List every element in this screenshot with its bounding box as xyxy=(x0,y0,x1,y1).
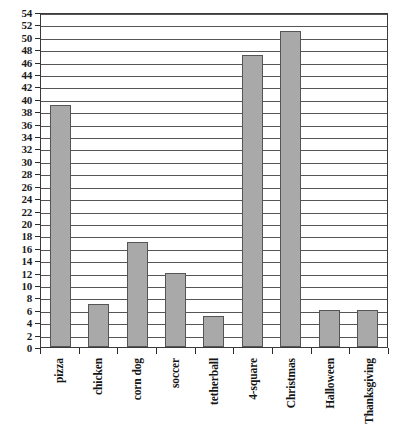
y-axis-tick-label: 4 xyxy=(27,318,32,329)
bar-slot xyxy=(310,14,348,347)
y-axis-tick-label: 46 xyxy=(21,57,32,68)
y-axis-tick-label: 14 xyxy=(21,256,32,267)
y-axis-tick-label: 34 xyxy=(21,132,32,143)
x-axis-tick-mark xyxy=(272,348,273,354)
bar xyxy=(50,105,71,347)
x-axis-tick-label: Halloween xyxy=(324,358,336,409)
x-label-slot: soccer xyxy=(156,356,195,431)
bar-slot xyxy=(118,14,156,347)
bar xyxy=(127,242,148,347)
x-axis-tick-mark xyxy=(311,348,312,354)
bar xyxy=(357,310,378,347)
y-axis-tick-label: 8 xyxy=(27,293,32,304)
y-axis-tick-label: 26 xyxy=(21,181,32,192)
bar-slot xyxy=(349,14,387,347)
y-axis-tick-label: 22 xyxy=(21,206,32,217)
y-axis-tick-label: 6 xyxy=(27,305,32,316)
y-axis-tick-label: 38 xyxy=(21,107,32,118)
y-axis-tick-label: 30 xyxy=(21,156,32,167)
plot-area xyxy=(40,13,388,348)
y-axis-tick-label: 2 xyxy=(27,330,32,341)
y-axis-tick-label: 50 xyxy=(21,32,32,43)
bar-slot xyxy=(79,14,117,347)
x-axis-tick-mark xyxy=(233,348,234,354)
x-axis-tick-mark xyxy=(117,348,118,354)
y-axis-tick-label: 40 xyxy=(21,94,32,105)
x-axis-tick-label: pizza xyxy=(53,358,65,383)
y-axis-tick-label: 32 xyxy=(21,144,32,155)
x-axis-tick-label: tetherball xyxy=(208,358,220,405)
x-axis-tick-marks xyxy=(40,348,388,354)
y-axis-tick-label: 16 xyxy=(21,243,32,254)
bar-slot xyxy=(272,14,310,347)
bar-slot xyxy=(233,14,271,347)
y-axis-tick-label: 28 xyxy=(21,169,32,180)
y-axis-tick-label: 48 xyxy=(21,45,32,56)
bar xyxy=(203,316,224,347)
y-axis-tick-label: 0 xyxy=(27,343,32,354)
x-label-slot: tetherball xyxy=(195,356,234,431)
y-axis-tick-label: 18 xyxy=(21,231,32,242)
x-axis-tick-label: corn dog xyxy=(131,358,143,400)
x-label-slot: pizza xyxy=(40,356,79,431)
x-axis-tick-label: soccer xyxy=(169,358,181,388)
bar xyxy=(242,55,263,347)
y-axis-tick-label: 20 xyxy=(21,218,32,229)
bar-chart: 0246810121416182022242628303234363840424… xyxy=(0,0,404,431)
bar xyxy=(165,273,186,347)
bar-slot xyxy=(195,14,233,347)
x-axis-tick-label: 4-square xyxy=(247,358,259,400)
y-axis-tick-label: 24 xyxy=(21,194,32,205)
x-axis-tick-mark xyxy=(388,348,389,354)
bar-slot xyxy=(41,14,79,347)
y-axis-tick-label: 36 xyxy=(21,119,32,130)
y-axis-tick-label: 44 xyxy=(21,70,32,81)
x-label-slot: corn dog xyxy=(117,356,156,431)
bars-layer xyxy=(41,14,387,347)
x-axis-tick-labels: pizzachickencorn dogsoccertetherball4-sq… xyxy=(40,356,388,431)
x-axis-tick-label: Christmas xyxy=(285,358,297,408)
x-label-slot: Thanksgiving xyxy=(349,356,388,431)
y-axis-tick-label: 54 xyxy=(21,8,32,19)
x-axis-tick-mark xyxy=(349,348,350,354)
x-axis-tick-mark xyxy=(79,348,80,354)
x-axis-tick-label: chicken xyxy=(92,358,104,395)
x-axis-tick-mark xyxy=(195,348,196,354)
x-axis-tick-mark xyxy=(40,348,41,354)
x-label-slot: chicken xyxy=(79,356,118,431)
x-label-slot: Christmas xyxy=(272,356,311,431)
y-axis-tick-label: 42 xyxy=(21,82,32,93)
x-label-slot: 4-square xyxy=(233,356,272,431)
y-axis-tick-labels: 0246810121416182022242628303234363840424… xyxy=(0,0,36,360)
x-label-slot: Halloween xyxy=(311,356,350,431)
y-axis-tick-label: 52 xyxy=(21,20,32,31)
x-axis-tick-label: Thanksgiving xyxy=(363,358,375,424)
bar xyxy=(88,304,109,347)
x-axis-tick-mark xyxy=(156,348,157,354)
bar xyxy=(319,310,340,347)
bar-slot xyxy=(156,14,194,347)
y-axis-tick-label: 12 xyxy=(21,268,32,279)
y-axis-tick-label: 10 xyxy=(21,280,32,291)
bar xyxy=(280,31,301,347)
